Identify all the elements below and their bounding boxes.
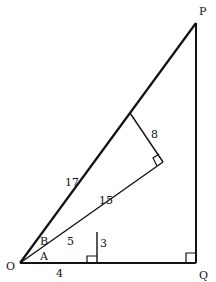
label-length-4: 4 bbox=[56, 267, 63, 280]
label-length-3: 3 bbox=[100, 237, 107, 250]
label-P: P bbox=[199, 5, 207, 18]
right-angle-marker-Q bbox=[186, 253, 196, 263]
right-angle-marker-foot3 bbox=[87, 256, 97, 263]
label-length-5: 5 bbox=[67, 235, 74, 248]
label-Q: Q bbox=[199, 269, 208, 282]
label-length-8: 8 bbox=[151, 128, 158, 141]
label-angle-A: A bbox=[39, 250, 49, 263]
label-length-15: 15 bbox=[99, 194, 113, 207]
line-OP bbox=[20, 23, 196, 263]
label-O: O bbox=[6, 260, 15, 273]
geometry-diagram: P O Q A B 17 15 8 5 3 4 bbox=[0, 0, 216, 282]
label-angle-B: B bbox=[40, 235, 48, 248]
label-length-17: 17 bbox=[65, 176, 79, 189]
